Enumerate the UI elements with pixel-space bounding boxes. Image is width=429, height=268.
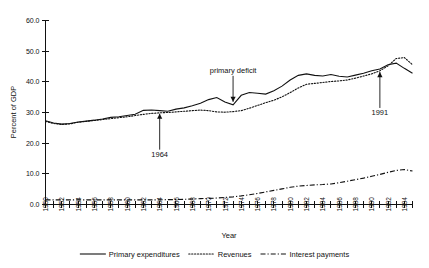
x-tick-label: 1974 — [238, 197, 245, 212]
x-tick-label: 1956 — [91, 197, 98, 212]
x-tick-label: 1954 — [75, 197, 82, 212]
legend-item-primary-expenditures[interactable]: Primary expenditures — [80, 250, 180, 259]
legend-item-revenues[interactable]: Revenues — [189, 250, 252, 259]
x-tick-label: 1982 — [303, 197, 310, 212]
x-tick-label: 1984 — [319, 197, 326, 212]
y-tick-label: 0.0 — [30, 201, 40, 208]
x-tick-label: 1990 — [368, 197, 375, 212]
annotation-arrowhead — [377, 72, 382, 77]
annotation-arrowhead — [230, 97, 235, 102]
y-tick-label: 50.0 — [26, 48, 40, 55]
legend-label: Primary expenditures — [109, 250, 180, 259]
x-tick-label: 1966 — [173, 197, 180, 212]
legend-item-interest-payments[interactable]: Interest payments — [261, 250, 350, 259]
axes-layer — [46, 20, 413, 205]
y-axis-tick-labels: 0.010.020.030.040.050.060.0 — [26, 17, 40, 208]
annotation-arrowhead — [157, 114, 162, 119]
x-tick-label: 1960 — [124, 197, 131, 212]
x-axis-title: Year — [221, 231, 237, 240]
series-line-interest-payments — [46, 170, 413, 200]
annotation-label-1964: 1964 — [151, 150, 168, 159]
chart-figure: 0.010.020.030.040.050.060.0 195019521954… — [0, 0, 429, 268]
x-tick-label: 1972 — [222, 197, 229, 212]
y-axis-title: Percent of GDP — [9, 86, 18, 139]
chart-canvas: 0.010.020.030.040.050.060.0 195019521954… — [0, 0, 429, 268]
y-tick-label: 30.0 — [26, 109, 40, 116]
x-tick-label: 1992 — [385, 197, 392, 212]
x-tick-label: 1978 — [270, 197, 277, 212]
chart-legend: Primary expendituresRevenuesInterest pay… — [80, 250, 350, 259]
tick-marks — [42, 21, 413, 209]
x-tick-label: 1980 — [287, 197, 294, 212]
x-tick-label: 1964 — [156, 197, 163, 212]
x-tick-label: 1994 — [401, 197, 408, 212]
legend-label: Revenues — [218, 250, 252, 259]
x-axis-tick-labels: 1950195219541956195819601962196419661968… — [42, 197, 408, 212]
legend-label: Interest payments — [290, 250, 350, 259]
x-tick-label: 1958 — [107, 197, 114, 212]
y-tick-label: 20.0 — [26, 140, 40, 147]
annotation-label-1991: 1991 — [372, 108, 389, 117]
x-tick-label: 1952 — [58, 197, 65, 212]
data-series-layer — [46, 58, 413, 200]
x-tick-label: 1962 — [140, 197, 147, 212]
x-tick-label: 1988 — [352, 197, 359, 212]
x-tick-label: 1986 — [336, 197, 343, 212]
y-tick-label: 10.0 — [26, 170, 40, 177]
annotations-layer: 1964primary deficit1991 — [151, 66, 388, 159]
annotation-label-primary-deficit: primary deficit — [210, 66, 258, 75]
x-tick-label: 1976 — [254, 197, 261, 212]
y-tick-label: 60.0 — [26, 17, 40, 24]
x-tick-label: 1950 — [42, 197, 49, 212]
y-tick-label: 40.0 — [26, 78, 40, 85]
